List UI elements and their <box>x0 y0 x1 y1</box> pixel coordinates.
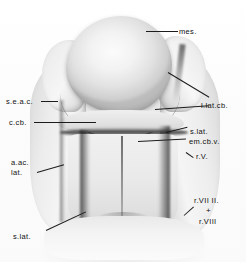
photographic-plate: mes. l.lat.cb. s.e.a.c. c.cb. s.lat. em.… <box>0 0 246 262</box>
label-plus: + <box>206 206 211 215</box>
label-s-lat-right: s.lat. <box>190 127 208 136</box>
right-lateral-shadow <box>158 126 170 230</box>
label-em-cb-v: em.cb.v. <box>189 137 220 146</box>
label-r-v: r.V. <box>196 152 208 161</box>
label-r-vii-ii: r.VII II. <box>194 196 219 205</box>
left-ridge-shadow <box>60 100 65 222</box>
specimen-base <box>44 216 204 260</box>
label-a-ac-lat-line2: lat. <box>11 168 22 178</box>
label-l-lat-cb: l.lat.cb. <box>201 101 228 110</box>
label-s-e-a-c: s.e.a.c. <box>6 97 33 106</box>
anatomical-figure: mes. l.lat.cb. s.e.a.c. c.cb. s.lat. em.… <box>0 0 246 262</box>
label-a-ac-lat-line1: a.ac. <box>11 158 29 168</box>
leader-line-s-e-a-c <box>41 101 58 102</box>
label-mes: mes. <box>179 27 197 36</box>
label-c-cb: c.cb. <box>9 118 27 127</box>
label-r-viii: r.VIII <box>199 217 217 226</box>
leader-line-mes <box>146 31 178 32</box>
left-lateral-shadow <box>80 130 90 230</box>
label-s-lat-bottom: s.lat. <box>13 232 31 241</box>
leader-line-c-cb <box>34 122 96 123</box>
